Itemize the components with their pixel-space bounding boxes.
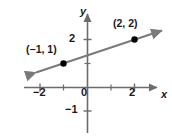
point-label-right: (2, 2) [113,18,138,29]
y-axis-label: y [80,6,86,17]
y-tick-label-neg1: −1 [65,104,78,115]
origin-label: 0 [81,87,87,98]
y-tick-label-pos2: 2 [69,33,75,44]
data-point-right [131,36,137,42]
graph-canvas [0,0,172,137]
x-axis-label: x [161,89,167,100]
x-tick-label-neg2: −2 [33,87,46,98]
coordinate-graph-figure: −2 0 2 2 −1 x y (−1, 1) (2, 2) [0,0,172,137]
x-tick-label-pos2: 2 [129,87,135,98]
point-label-left: (−1, 1) [26,44,57,55]
data-point-left [60,60,66,66]
